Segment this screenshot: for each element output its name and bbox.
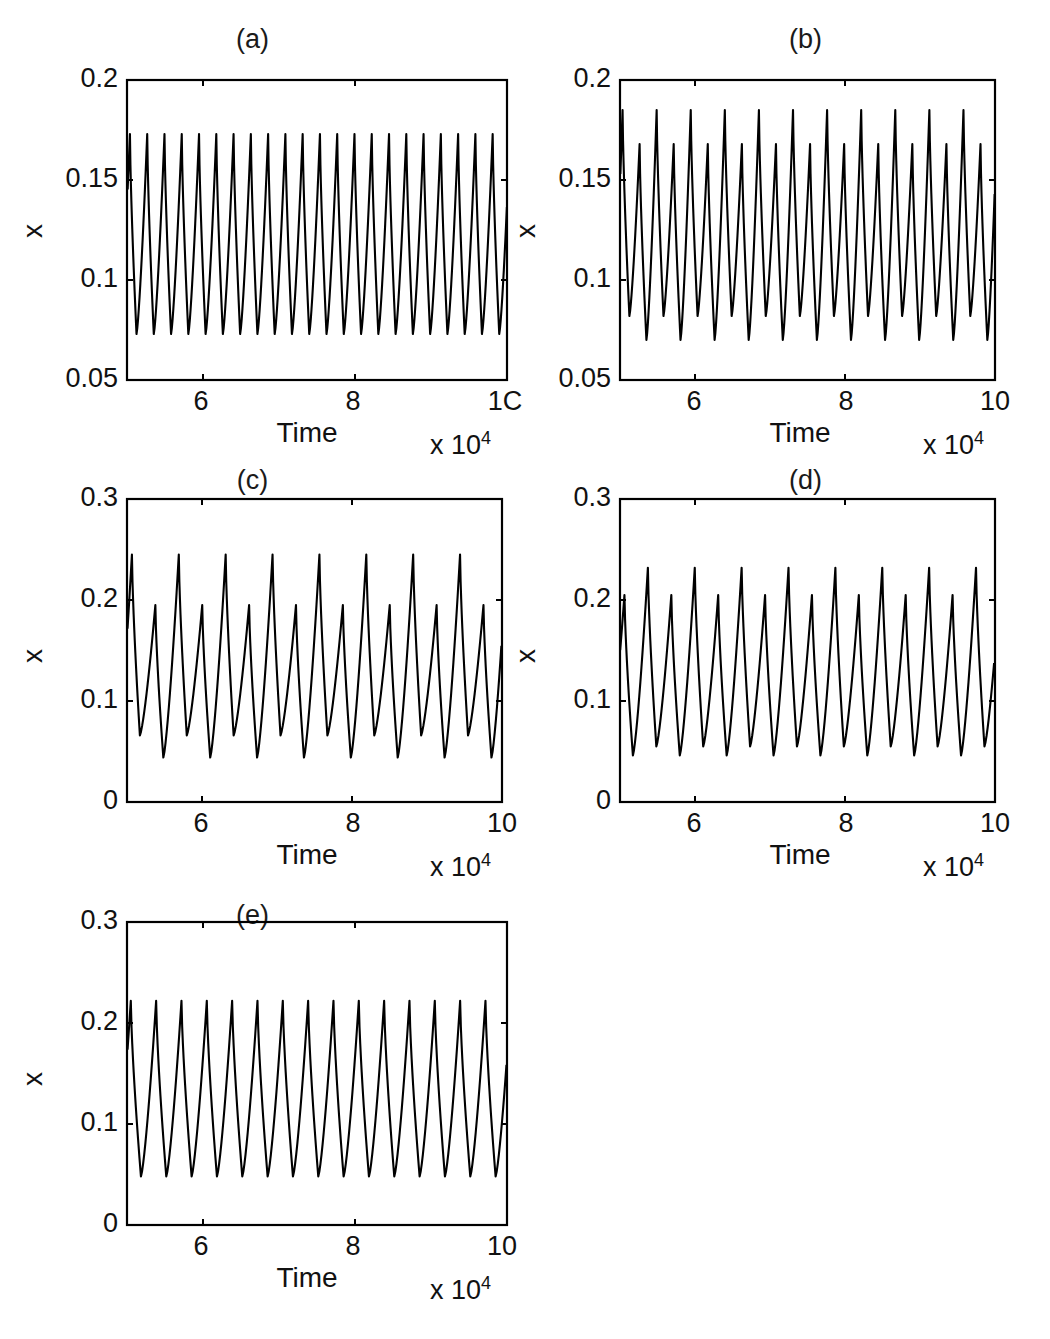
panel-c-xlabel: Time xyxy=(276,839,337,871)
panel-a-ytick-1: 0.15 xyxy=(0,163,118,194)
panel-a-series-line xyxy=(128,134,507,334)
panel-d-chart-svg xyxy=(618,497,997,804)
panel-d-ytick-3: 0 xyxy=(493,785,611,816)
panel-a-ytick-2: 0.1 xyxy=(0,263,118,294)
panel-b-ytick-1: 0.15 xyxy=(493,163,611,194)
panel-c-ylabel: x xyxy=(17,649,49,663)
panel-b-xtick-0: 6 xyxy=(686,386,701,417)
panel-a: (a) 0.2 0.15 0.1 0.05 6 8 1C x Time x 10… xyxy=(0,0,525,455)
panel-b-ytick-0: 0.2 xyxy=(493,63,611,94)
panel-a-ytick-3: 0.05 xyxy=(0,363,118,394)
panel-d-ylabel: x xyxy=(510,649,542,663)
panel-c-ytick-0: 0.3 xyxy=(0,482,118,513)
panel-d-xtick-1: 8 xyxy=(838,808,853,839)
panel-b-ylabel: x xyxy=(510,224,542,238)
panel-a-ytick-0: 0.2 xyxy=(0,63,118,94)
panel-c-chart-svg xyxy=(125,497,504,804)
panel-a-plot-area xyxy=(125,78,509,382)
panel-e-plot-area xyxy=(125,920,509,1227)
panel-b-xtick-2: 10 xyxy=(980,386,1010,417)
panel-d-exponent-base: x 10 xyxy=(923,852,974,882)
panel-e-chart-svg xyxy=(125,920,509,1227)
panel-d-series-line xyxy=(620,568,994,756)
panel-d: (d) 0.3 0.2 0.1 0 6 8 10 x Time x 104 xyxy=(493,440,1050,895)
panel-d-axis-exponent: x 104 xyxy=(923,850,984,883)
panel-e-xtick-0: 6 xyxy=(193,1231,208,1262)
panel-a-xtick-0: 6 xyxy=(193,386,208,417)
panel-b: (b) 0.2 0.15 0.1 0.05 6 8 10 x Time x 10… xyxy=(493,0,1050,455)
panel-d-exponent-power: 4 xyxy=(974,850,984,870)
panel-d-plot-area xyxy=(618,497,997,804)
panel-e-series-line xyxy=(128,1001,507,1177)
panel-c-series-line xyxy=(128,555,502,758)
panel-b-chart-svg xyxy=(618,78,997,382)
panel-e: (e) 0.3 0.2 0.1 0 6 8 10 x Time x 104 xyxy=(0,880,525,1339)
panel-c-ytick-1: 0.2 xyxy=(0,583,118,614)
panel-e-exponent-power: 4 xyxy=(481,1273,491,1293)
panel-a-ylabel: x xyxy=(17,224,49,238)
panel-d-xtick-2: 10 xyxy=(980,808,1010,839)
figure-multi-panel-timeseries: (a) 0.2 0.15 0.1 0.05 6 8 1C x Time x 10… xyxy=(0,0,1050,1339)
panel-e-xtick-1: 8 xyxy=(345,1231,360,1262)
panel-e-xlabel: Time xyxy=(276,1262,337,1294)
panel-b-ytick-3: 0.05 xyxy=(493,363,611,394)
panel-c: (c) 0.3 0.2 0.1 0 6 8 10 x Time x 104 xyxy=(0,440,525,895)
panel-b-plot-area xyxy=(618,78,997,382)
panel-b-ytick-2: 0.1 xyxy=(493,263,611,294)
panel-a-title: (a) xyxy=(0,24,505,55)
panel-c-exponent-power: 4 xyxy=(481,850,491,870)
panel-c-xtick-0: 6 xyxy=(193,808,208,839)
panel-e-exponent-base: x 10 xyxy=(430,1275,481,1305)
panel-d-ytick-1: 0.2 xyxy=(493,583,611,614)
panel-d-ytick-2: 0.1 xyxy=(493,684,611,715)
panel-d-ytick-0: 0.3 xyxy=(493,482,611,513)
panel-c-exponent-base: x 10 xyxy=(430,852,481,882)
panel-e-axis-exponent: x 104 xyxy=(430,1273,491,1306)
panel-e-ytick-0: 0.3 xyxy=(0,905,118,936)
panel-a-xtick-1: 8 xyxy=(345,386,360,417)
panel-c-plot-area xyxy=(125,497,504,804)
panel-d-title: (d) xyxy=(618,465,993,496)
panel-a-chart-svg xyxy=(125,78,509,382)
panel-c-axis-exponent: x 104 xyxy=(430,850,491,883)
panel-b-xtick-1: 8 xyxy=(838,386,853,417)
panel-d-xlabel: Time xyxy=(769,839,830,871)
panel-b-series-line xyxy=(620,110,994,340)
panel-e-ylabel: x xyxy=(17,1072,49,1086)
panel-c-ytick-3: 0 xyxy=(0,785,118,816)
panel-d-xtick-0: 6 xyxy=(686,808,701,839)
panel-c-ytick-2: 0.1 xyxy=(0,684,118,715)
panel-e-xtick-2: 10 xyxy=(487,1231,517,1262)
panel-e-ytick-1: 0.2 xyxy=(0,1006,118,1037)
panel-b-title: (b) xyxy=(618,24,993,55)
panel-c-xtick-1: 8 xyxy=(345,808,360,839)
panel-e-ytick-2: 0.1 xyxy=(0,1107,118,1138)
panel-e-ytick-3: 0 xyxy=(0,1208,118,1239)
